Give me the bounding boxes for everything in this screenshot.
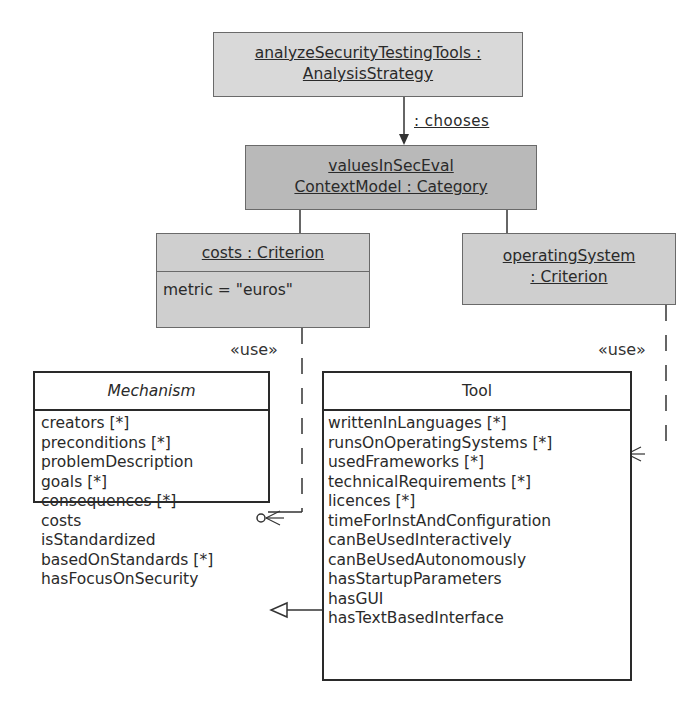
attribute: hasTextBasedInterface	[328, 609, 624, 629]
object-name: analyzeSecurityTestingTools :	[214, 43, 522, 64]
attribute: basedOnStandards [*]	[41, 551, 262, 571]
object-name: valuesInSecEval	[246, 156, 536, 177]
tool-class[interactable]: Tool writtenInLanguages [*] runsOnOperat…	[322, 371, 632, 681]
attribute: canBeUsedInteractively	[328, 531, 624, 551]
chooses-label: : chooses	[414, 112, 489, 130]
generalization-triangle-icon	[271, 603, 287, 617]
attribute: creators [*]	[41, 414, 262, 434]
attribute: hasGUI	[328, 590, 624, 610]
os-criterion-object[interactable]: operatingSystem : Criterion	[462, 233, 676, 305]
object-type: AnalysisStrategy	[214, 64, 522, 85]
attribute-list: creators [*] preconditions [*] problemDe…	[35, 411, 268, 593]
attribute: problemDescription	[41, 453, 262, 473]
class-name: Tool	[324, 373, 630, 411]
arrow-head-icon	[399, 134, 409, 145]
object-type: : Criterion	[463, 267, 675, 288]
attribute: preconditions [*]	[41, 434, 262, 454]
object-type: ContextModel : Category	[246, 177, 536, 198]
attribute-list: writtenInLanguages [*] runsOnOperatingSy…	[324, 411, 630, 632]
attribute: timeForInstAndConfiguration	[328, 512, 624, 532]
category-object[interactable]: valuesInSecEval ContextModel : Category	[245, 145, 537, 210]
attribute: licences [*]	[328, 492, 624, 512]
attribute: canBeUsedAutonomously	[328, 551, 624, 571]
object-slot: metric = "euros"	[157, 272, 369, 304]
mechanism-class[interactable]: Mechanism creators [*] preconditions [*]…	[33, 371, 270, 503]
analysis-strategy-object[interactable]: analyzeSecurityTestingTools : AnalysisSt…	[213, 32, 523, 97]
use-stereotype-left: «use»	[230, 340, 278, 359]
attribute: isStandardized	[41, 531, 262, 551]
attribute: goals [*]	[41, 473, 262, 493]
attribute: hasStartupParameters	[328, 570, 624, 590]
use-stereotype-right: «use»	[598, 340, 646, 359]
attribute: costs	[41, 512, 262, 532]
object-title: costs : Criterion	[157, 234, 369, 271]
attribute: consequences [*]	[41, 492, 262, 512]
attribute: writtenInLanguages [*]	[328, 414, 624, 434]
attribute: technicalRequirements [*]	[328, 473, 624, 493]
attribute: hasFocusOnSecurity	[41, 570, 262, 590]
attribute: runsOnOperatingSystems [*]	[328, 434, 624, 454]
costs-criterion-object[interactable]: costs : Criterion metric = "euros"	[156, 233, 370, 328]
class-name: Mechanism	[35, 373, 268, 411]
object-name: operatingSystem	[463, 246, 675, 267]
attribute: usedFrameworks [*]	[328, 453, 624, 473]
